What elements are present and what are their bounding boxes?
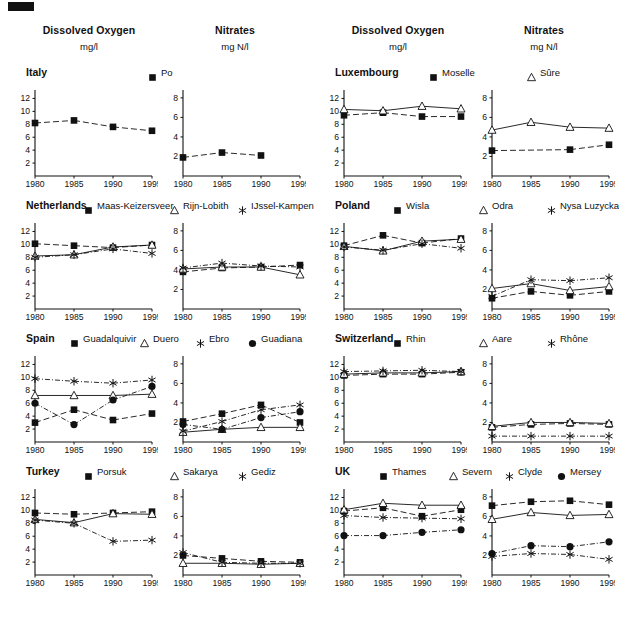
panel-dissolved-oxygen: 246810121980198519901995 [317,350,467,462]
svg-text:8: 8 [173,492,178,502]
legend-label: Po [161,67,173,78]
svg-text:4: 4 [173,132,178,142]
data-point-star [296,401,303,409]
row-header: TurkeyPorsukSakaryaGediz [0,463,308,483]
data-point-triangle [141,339,149,346]
svg-text:1980: 1980 [482,312,501,322]
svg-text:6: 6 [482,378,487,388]
data-point-square [71,242,78,249]
data-point-triangle [340,105,348,112]
data-point-star [548,206,555,214]
legend-item: IJssel-Kampen [238,200,314,211]
svg-text:4: 4 [25,411,30,421]
svg-text:8: 8 [482,93,487,103]
data-point-star [457,244,464,252]
legend-item: Severn [449,466,492,477]
svg-text:1985: 1985 [373,445,392,455]
svg-text:8: 8 [334,252,339,262]
data-point-square [180,154,187,161]
data-point-star [506,472,513,480]
panel-dissolved-oxygen: 246810121980198519901995 [317,84,467,196]
svg-text:1995: 1995 [290,312,306,322]
legend-marker-triangle [449,467,458,476]
svg-text:1985: 1985 [521,312,540,322]
svg-text:4: 4 [173,265,178,275]
data-point-square [258,152,265,159]
svg-text:2: 2 [25,424,30,434]
data-point-triangle [171,206,179,213]
svg-text:1990: 1990 [103,179,122,189]
country-label: Spain [26,332,55,344]
country-label: Italy [26,66,47,78]
data-point-square [110,417,117,424]
data-point-square [32,120,39,127]
panel-dissolved-oxygen: 246810121980198519901995 [8,483,158,595]
panel-nitrates: 24681980198519901995 [156,350,306,462]
svg-text:12: 12 [329,492,339,502]
svg-text:1985: 1985 [521,445,540,455]
panel-dissolved-oxygen: 246810121980198519901995 [8,217,158,329]
data-point-square [32,419,39,426]
svg-text:1990: 1990 [103,578,122,588]
panel-pair: 2468101219801985199019952468198019851990… [309,483,617,595]
svg-text:1980: 1980 [173,312,192,322]
plot-canvas: 24681980198519901995 [156,483,306,595]
svg-text:1995: 1995 [599,445,615,455]
country-label: Luxembourg [335,66,399,78]
legend-item: Guadalquivir [70,333,136,344]
data-point-square [149,127,156,134]
svg-text:1980: 1980 [334,179,353,189]
svg-text:6: 6 [173,378,178,388]
legend-label: Severn [462,466,492,477]
data-point-circle [527,542,534,549]
plot-canvas: 24681980198519901995 [465,84,615,196]
data-point-square [606,141,613,148]
svg-text:6: 6 [25,398,30,408]
row-header: NetherlandsMaas-KeizersveerRijn-LobithIJ… [0,197,308,217]
svg-text:2: 2 [25,557,30,567]
svg-text:1995: 1995 [599,578,615,588]
svg-text:8: 8 [482,226,487,236]
svg-text:1985: 1985 [373,578,392,588]
svg-text:1990: 1990 [412,179,431,189]
data-point-star [457,515,464,523]
data-point-triangle [450,472,458,479]
svg-text:1980: 1980 [25,578,44,588]
svg-text:1985: 1985 [64,312,83,322]
svg-text:1980: 1980 [25,445,44,455]
svg-text:1985: 1985 [373,179,392,189]
figure-column-right: Dissolved Oxygenmg/lNitratesmg N/lLuxemb… [309,0,617,617]
svg-text:8: 8 [173,359,178,369]
country-label: UK [335,465,350,477]
legend-marker-square [148,68,157,77]
svg-text:1985: 1985 [521,578,540,588]
legend-marker-triangle [170,201,179,210]
data-point-triangle [70,391,78,398]
svg-text:8: 8 [482,492,487,502]
parameter-unit: mg/l [14,41,164,52]
svg-text:4: 4 [482,398,487,408]
legend-marker-square [393,334,402,343]
data-point-triangle [605,510,613,517]
legend-label: Nysa Luzycka [560,200,619,211]
svg-text:1985: 1985 [521,179,540,189]
svg-text:12: 12 [20,93,30,103]
parameter-header: Dissolved Oxygenmg/l [323,24,473,52]
legend-marker-triangle [140,334,149,343]
svg-text:8: 8 [334,385,339,395]
svg-text:8: 8 [334,518,339,528]
svg-text:1990: 1990 [251,179,270,189]
country-label: Turkey [26,465,60,477]
svg-text:4: 4 [173,398,178,408]
svg-text:1995: 1995 [599,312,615,322]
svg-text:4: 4 [334,278,339,288]
svg-text:8: 8 [482,359,487,369]
plot-canvas: 246810121980198519901995 [317,350,467,462]
data-point-square [71,340,78,347]
data-point-circle [379,532,386,539]
panel-nitrates: 24681980198519901995 [156,217,306,329]
plot-canvas: 24681980198519901995 [156,217,306,329]
legend-label: Rijn-Lobith [183,200,228,211]
legend-label: Clyde [518,466,542,477]
legend-item: Wisla [393,200,429,211]
